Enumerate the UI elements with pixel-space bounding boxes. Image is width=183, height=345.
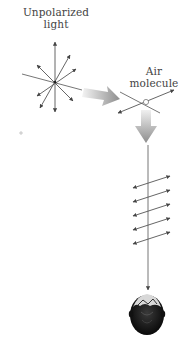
scattered-light-arrow	[135, 110, 157, 143]
scattering-diagram	[0, 0, 183, 345]
polarized-e-field-arrow	[133, 176, 170, 188]
light-origin-dot	[54, 81, 57, 84]
polarized-e-field-arrow	[133, 190, 170, 202]
incident-light-arrow	[82, 86, 120, 106]
air-molecule-dipole	[118, 90, 174, 113]
unpolarized-light-star	[22, 42, 82, 112]
polarized-e-field-arrow	[133, 232, 170, 244]
air-molecule-icon	[143, 99, 148, 104]
observer-head-icon	[129, 294, 165, 335]
e-field-arrow-diag3	[37, 69, 76, 96]
polarized-e-field-arrow	[133, 204, 170, 216]
polarized-e-field-arrow	[133, 218, 170, 230]
stray-mark	[19, 131, 23, 135]
polarized-arrows	[133, 176, 170, 244]
